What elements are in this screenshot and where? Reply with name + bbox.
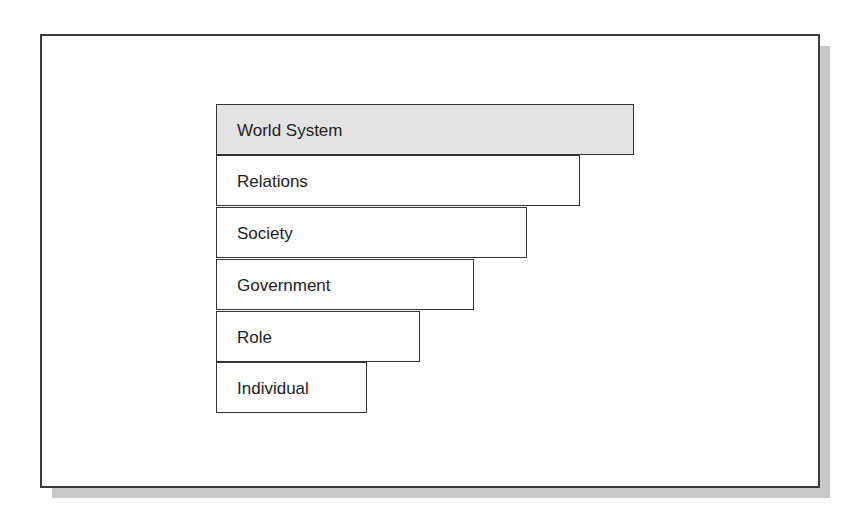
level-label: Society xyxy=(237,208,293,259)
level-world-system: World System xyxy=(216,104,634,155)
level-society: Society xyxy=(216,207,527,258)
level-label: Role xyxy=(237,312,272,363)
level-relations: Relations xyxy=(216,155,580,206)
level-label: Relations xyxy=(237,156,308,207)
level-label: Individual xyxy=(237,363,309,414)
level-role: Role xyxy=(216,311,420,362)
level-individual: Individual xyxy=(216,362,367,413)
level-government: Government xyxy=(216,259,474,310)
level-label: Government xyxy=(237,260,331,311)
level-label: World System xyxy=(237,105,343,156)
